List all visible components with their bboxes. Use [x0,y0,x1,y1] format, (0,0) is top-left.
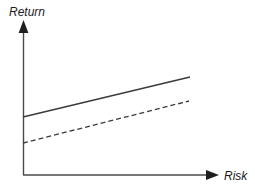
x-axis-label: Risk [224,169,248,183]
x-axis-arrowhead-icon [206,170,219,180]
lower-dashed-line [23,101,189,143]
upper-solid-line [23,77,190,117]
risk-return-chart: Return Risk [0,0,255,193]
chart-canvas: Return Risk [0,0,255,193]
y-axis-arrowhead-icon [19,20,29,33]
y-axis-label: Return [9,5,45,19]
